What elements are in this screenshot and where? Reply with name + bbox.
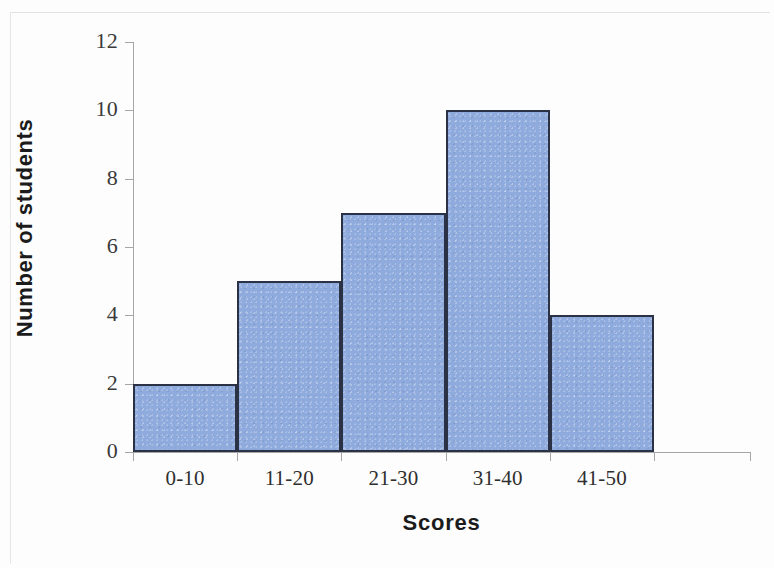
bar-texture xyxy=(448,112,548,450)
plot-area xyxy=(133,42,750,452)
bar xyxy=(237,281,341,452)
x-axis-tick xyxy=(237,452,238,461)
y-axis-tick-label-wrap: 2 xyxy=(72,370,118,396)
bar xyxy=(446,110,550,452)
y-axis-tick-label: 4 xyxy=(76,301,118,327)
y-axis-tick-label-wrap: 4 xyxy=(72,301,118,327)
y-axis-tick-label-wrap: 6 xyxy=(72,233,118,259)
bar xyxy=(133,384,237,452)
bar-texture xyxy=(135,386,235,450)
x-axis-title: Scores xyxy=(133,510,750,536)
x-axis-tick xyxy=(654,452,655,461)
x-axis-tick xyxy=(446,452,447,461)
y-axis-tick-label-wrap: 8 xyxy=(72,165,118,191)
chart-page: Number of students 024681012 0-1011-2021… xyxy=(0,0,774,568)
x-axis-tick xyxy=(133,452,134,461)
y-axis-tick-label: 0 xyxy=(76,438,118,464)
x-axis-end-tick xyxy=(750,452,751,461)
bar-texture xyxy=(343,215,443,450)
bar-texture xyxy=(239,283,339,450)
y-axis-tick-label-wrap: 0 xyxy=(72,438,118,464)
x-axis-line xyxy=(133,452,751,453)
bar-texture xyxy=(552,317,652,450)
bar xyxy=(550,315,654,452)
x-axis-tick xyxy=(341,452,342,461)
y-axis-tick-label: 8 xyxy=(76,165,118,191)
y-axis-tick-label-wrap: 12 xyxy=(72,28,118,54)
x-axis-tick-label: 41-50 xyxy=(532,466,672,491)
y-axis-tick-label-wrap: 10 xyxy=(72,96,118,122)
bar xyxy=(341,213,445,452)
y-axis-tick-label: 2 xyxy=(76,370,118,396)
y-axis-tick-label: 10 xyxy=(76,96,118,122)
x-axis-tick xyxy=(550,452,551,461)
y-axis-title: Number of students xyxy=(12,13,38,443)
y-axis-tick-label: 6 xyxy=(76,233,118,259)
y-axis-tick-label: 12 xyxy=(76,28,118,54)
